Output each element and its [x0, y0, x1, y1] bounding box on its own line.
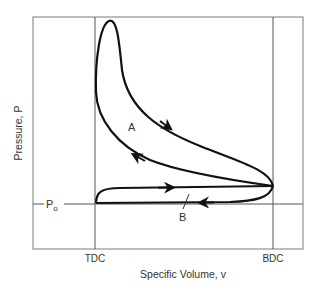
pv-diagram: A B Po TDC BDC Specific Volume, v Pressu… [0, 0, 330, 293]
bdc-label: BDC [262, 253, 283, 264]
region-a-label: A [128, 121, 136, 133]
plot-frame [33, 17, 303, 249]
compression-curve [96, 21, 273, 186]
tdc-label: TDC [85, 253, 106, 264]
region-b-label: B [179, 211, 186, 223]
y-axis-label: Pressure, P [12, 106, 24, 161]
x-axis-label: Specific Volume, v [140, 268, 227, 280]
